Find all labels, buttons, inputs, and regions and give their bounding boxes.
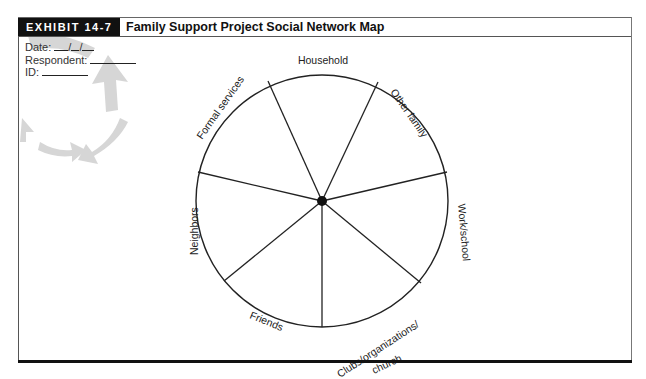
segment-label-other-family: Other family — [388, 86, 431, 140]
segment-label-friends: Friends — [248, 309, 285, 333]
center-node — [317, 196, 327, 206]
segment-label-work-school: Work/school — [456, 203, 473, 261]
social-network-wheel: Household Other family Work/school Clubs… — [0, 0, 646, 379]
segment-label-household: Household — [298, 54, 348, 66]
bottom-rule — [18, 360, 632, 363]
segment-label-neighbors: Neighbors — [188, 207, 200, 255]
